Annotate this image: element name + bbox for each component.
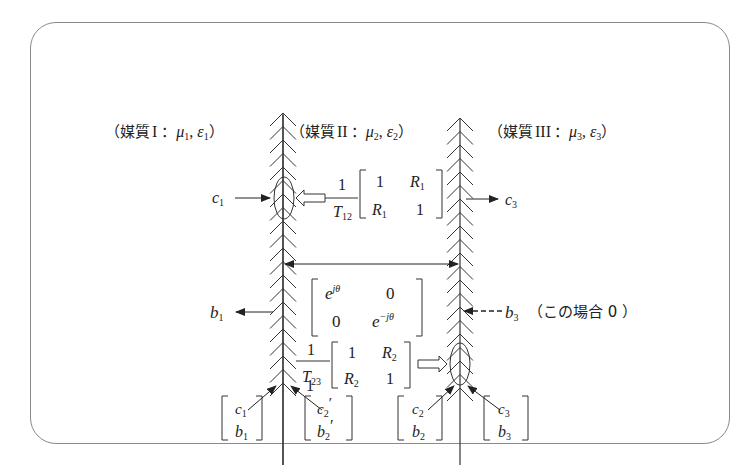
svg-text:c2′: c2′ bbox=[317, 395, 332, 419]
svg-text:1: 1 bbox=[386, 370, 394, 387]
arrow-c2b2-in bbox=[428, 386, 454, 410]
svg-text:T23: T23 bbox=[302, 368, 321, 387]
svg-text:c2: c2 bbox=[412, 401, 424, 419]
svg-text:1: 1 bbox=[307, 341, 315, 358]
svg-text:1: 1 bbox=[348, 344, 356, 361]
svg-text:b2′: b2′ bbox=[317, 417, 334, 442]
svg-text:R2: R2 bbox=[381, 344, 397, 363]
hollow-arrow-right bbox=[418, 356, 447, 372]
svg-text:b2: b2 bbox=[412, 423, 425, 442]
svg-text:c3: c3 bbox=[498, 401, 510, 419]
svg-text:c1: c1 bbox=[235, 401, 247, 419]
svg-text:b3: b3 bbox=[498, 423, 511, 442]
junction-ellipse-bottom bbox=[450, 343, 470, 385]
svg-text:b1: b1 bbox=[235, 423, 248, 442]
matrix-t23-group: 1 T23 1 R2 R2 1 bbox=[296, 341, 410, 389]
diagram-lower-layer: 1 T23 1 R2 R2 1 c1 b1 c2′ b2′ c2 b2 bbox=[0, 0, 742, 465]
svg-text:R2: R2 bbox=[343, 370, 359, 389]
